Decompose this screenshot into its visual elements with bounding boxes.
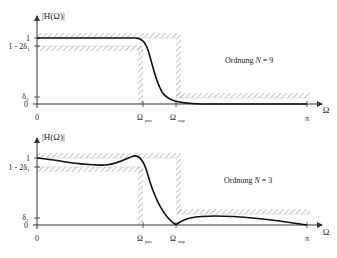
bottom-xtick-pi: π [305, 234, 309, 243]
top-ytick-one-minus-sub: 1 [27, 47, 30, 52]
top-xtick-pi: π [305, 114, 309, 123]
top-xtick-pass: Ω [137, 113, 143, 122]
bottom-xtick-stop-sub: stop [178, 239, 185, 244]
bottom-ytick-zero: 0 [24, 221, 28, 230]
top-plot: |H(Ω)| 1 1 - 2δ 1 δ 2 0 0 Ω pass Ω stop … [9, 11, 330, 123]
bottom-plot: |H(Ω)| 1 1 - 2δ 1 δ 2 0 0 Ω pass Ω stop … [9, 132, 330, 244]
top-y-axis-label: |H(Ω)| [42, 11, 65, 21]
bottom-ytick-one-minus-sub: 1 [27, 168, 30, 173]
top-ytick-one-minus: 1 - 2δ [9, 42, 28, 51]
bottom-x-axis-label: Ω [323, 227, 330, 237]
bottom-xtick-zero: 0 [35, 234, 39, 243]
bottom-xtick-stop: Ω [170, 234, 176, 243]
bottom-xtick-pass-sub: pass [145, 239, 152, 244]
bottom-order-annotation: Ordnung N = 3 [224, 176, 272, 185]
bottom-magnitude-curve [37, 156, 307, 225]
top-xtick-pass-sub: pass [145, 118, 152, 123]
top-ytick-zero: 0 [24, 100, 28, 109]
top-order-annotation: Ordnung N = 9 [225, 56, 273, 65]
top-xtick-stop-sub: stop [178, 118, 185, 123]
bottom-y-axis-label: |H(Ω)| [42, 132, 65, 142]
top-x-axis-label: Ω [323, 105, 330, 115]
top-tolerance-hatch [37, 33, 310, 104]
bottom-ytick-one-minus: 1 - 2δ [9, 163, 28, 172]
top-xtick-zero: 0 [35, 113, 39, 122]
bottom-ytick-one: 1 [26, 154, 30, 163]
filter-tolerance-diagram: |H(Ω)| 1 1 - 2δ 1 δ 2 0 0 Ω pass Ω stop … [0, 0, 337, 258]
top-xtick-stop: Ω [170, 113, 176, 122]
bottom-xtick-pass: Ω [137, 234, 143, 243]
